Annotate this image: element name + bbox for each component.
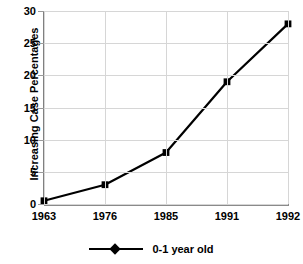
y-axis-tick-label: 30: [16, 6, 36, 16]
y-axis-tick-label: 15: [16, 103, 36, 113]
legend-entry-0-1-year-old: 0-1 year old: [89, 243, 213, 255]
x-axis-tick-label: 1976: [75, 208, 135, 224]
y-axis-tick-mark: [38, 108, 44, 109]
gridline-vertical: [227, 11, 228, 204]
x-axis-tick-label: 1992: [258, 208, 303, 224]
x-axis-tick-labels: 19631976198519911992: [0, 208, 303, 226]
y-axis-tick-label: 25: [16, 38, 36, 48]
legend-line-marker-icon: [89, 243, 143, 255]
y-axis-tick-mark: [38, 75, 44, 76]
gridline-vertical: [105, 11, 106, 204]
gridline-vertical: [44, 11, 45, 204]
gridline-vertical: [288, 11, 289, 204]
line-chart: Increasing Case Percentages 051015202530…: [0, 0, 303, 264]
y-axis-tick-label: 10: [16, 135, 36, 145]
y-axis-tick-mark: [38, 43, 44, 44]
gridline-vertical: [166, 11, 167, 204]
y-axis-tick-labels: 051015202530: [14, 0, 36, 215]
legend-label: 0-1 year old: [152, 243, 213, 255]
y-axis-tick-label: 5: [16, 167, 36, 177]
x-axis-tick-label: 1985: [136, 208, 196, 224]
x-axis-tick-label: 1991: [197, 208, 257, 224]
y-axis-tick-mark: [38, 140, 44, 141]
y-axis-tick-mark: [38, 172, 44, 173]
x-axis-tick-label: 1963: [14, 208, 74, 224]
gridline-horizontal: [44, 204, 288, 205]
y-axis-tick-mark: [38, 204, 44, 205]
chart-legend: 0-1 year old: [0, 239, 303, 259]
y-axis-tick-mark: [38, 11, 44, 12]
plot-area: [44, 11, 288, 204]
y-axis-tick-label: 20: [16, 70, 36, 80]
